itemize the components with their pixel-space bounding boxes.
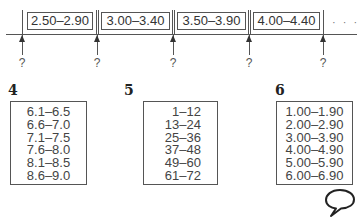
boundary-line (98, 10, 99, 34)
boundary-question-mark: ? (317, 56, 329, 70)
boundary-line (174, 10, 175, 34)
arrow-up-icon (173, 35, 174, 55)
interval-box: 3.50–3.90 (177, 12, 246, 30)
arrow-up-icon (97, 35, 98, 55)
boundary-question-mark: ? (16, 56, 28, 70)
interval-box: 2.50–2.90 (27, 12, 93, 30)
continuation-ellipsis: · · · (332, 16, 359, 28)
exercise-number: 6 (275, 82, 285, 98)
interval-list: 6.1–6.5 6.6–7.0 7.1–7.5 7.6–8.0 8.1–8.5 … (10, 101, 87, 185)
boundary-line (96, 10, 97, 34)
exercise-number: 5 (124, 82, 134, 98)
boundary-question-mark: ? (243, 56, 255, 70)
interval-list: 1.00–1.90 2.00–2.90 3.00–3.90 4.00–4.90 … (276, 101, 353, 185)
interval-item: 8.6–9.0 (11, 170, 86, 183)
speech-bubble-icon (324, 188, 356, 218)
interval-box: 4.00–4.40 (253, 12, 320, 30)
boundary-line (323, 10, 324, 34)
boundary-line (250, 10, 251, 34)
arrow-up-icon (22, 35, 23, 55)
boundary-line (248, 10, 249, 34)
boundary-line (172, 10, 173, 34)
interval-box: 3.00–3.40 (101, 12, 170, 30)
interval-item: 61–72 (144, 170, 201, 183)
exercise-number: 4 (8, 82, 18, 98)
boundary-line (22, 10, 23, 34)
boundary-question-mark: ? (91, 56, 103, 70)
arrow-up-icon (249, 35, 250, 55)
boundary-question-mark: ? (167, 56, 179, 70)
interval-list: 1–12 13–24 25–36 37–48 49–60 61–72 (143, 101, 218, 185)
axis-line (6, 34, 357, 35)
arrow-up-icon (323, 35, 324, 55)
interval-item: 6.00–6.90 (277, 170, 352, 183)
